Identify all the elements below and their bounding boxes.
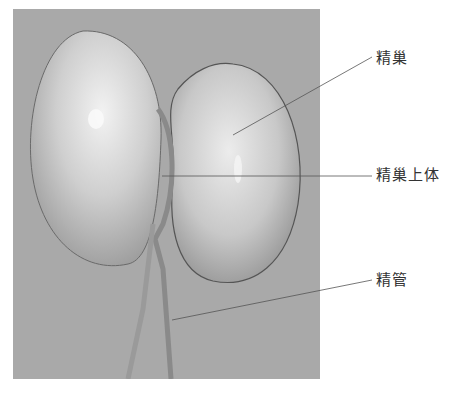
specimen-illustration: [13, 9, 320, 379]
label-epididymis: 精巢上体: [376, 163, 440, 184]
specimen-photo: [13, 9, 320, 379]
label-vas-deferens: 精管: [376, 268, 408, 289]
label-testis: 精巢: [376, 46, 408, 67]
